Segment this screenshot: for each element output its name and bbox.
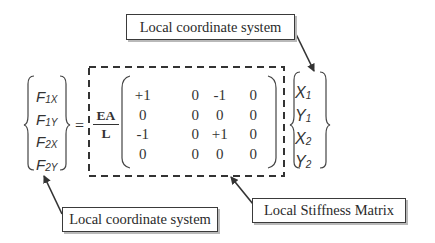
matrix-cell: +1 [201, 125, 238, 145]
matrix-row: 0 0 0 0 [128, 106, 268, 126]
arrow-bottom-left-to-force [44, 176, 62, 214]
right-brace-x [320, 72, 330, 168]
arrow-top-to-displacement [294, 30, 314, 71]
matrix-cell: 0 [128, 145, 158, 165]
matrix-cell: -1 [128, 125, 158, 145]
stiffness-matrix: +1 0 -1 0 0 0 0 0 -1 0 +1 0 0 0 0 0 [128, 86, 268, 164]
matrix-cell: 0 [238, 125, 268, 145]
matrix-right-bracket [268, 76, 276, 168]
matrix-cell: 0 [238, 145, 268, 165]
equals-sign: = [75, 117, 84, 135]
matrix-row: 0 0 0 0 [128, 145, 268, 165]
displacement-entry: X2 [295, 129, 321, 152]
force-entry: F2X [36, 132, 70, 155]
matrix-cell: 0 [201, 145, 238, 165]
matrix-row: -1 0 +1 0 [128, 125, 268, 145]
matrix-cell: 0 [128, 106, 158, 126]
coefficient-numerator: EA [93, 109, 119, 125]
displacement-entry: X1 [295, 83, 321, 106]
force-entry: F2Y [36, 155, 70, 178]
matrix-cell: 0 [158, 106, 201, 126]
displacement-vector: X1 Y1 X2 Y2 [295, 83, 321, 175]
matrix-cell: 0 [238, 86, 268, 106]
matrix-cell: -1 [201, 86, 238, 106]
force-vector: F1X F1Y F2X F2Y [36, 87, 70, 177]
matrix-cell: 0 [238, 106, 268, 126]
matrix-cell: 0 [158, 125, 201, 145]
label-local-coordinate-system-top: Local coordinate system [126, 14, 295, 40]
label-local-stiffness-matrix: Local Stiffness Matrix [252, 198, 406, 223]
displacement-entry: Y1 [295, 106, 321, 129]
matrix-row: +1 0 -1 0 [128, 86, 268, 106]
matrix-cell: 0 [201, 106, 238, 126]
left-brace-f [24, 76, 34, 170]
arrow-bottom-right-to-matrix [231, 177, 253, 204]
coefficient-denominator: L [93, 125, 119, 142]
matrix-cell: +1 [128, 86, 158, 106]
force-entry: F1Y [36, 110, 70, 133]
matrix-cell: 0 [158, 145, 201, 165]
matrix-cell: 0 [158, 86, 201, 106]
label-local-coordinate-system-bottom: Local coordinate system [62, 207, 218, 232]
displacement-entry: Y2 [295, 152, 321, 175]
force-entry: F1X [36, 87, 70, 110]
coefficient-fraction: EA L [93, 109, 119, 142]
